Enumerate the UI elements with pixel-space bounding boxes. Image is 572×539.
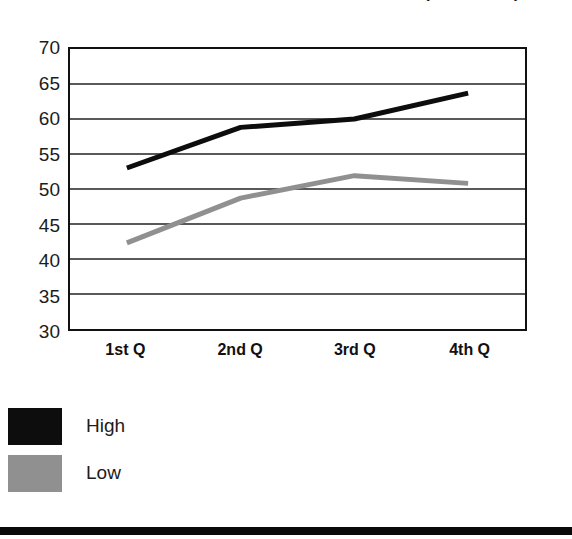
legend-item: High (8, 405, 308, 452)
bottom-rule-divider (0, 527, 572, 535)
x-tick-label: 1st Q (70, 340, 180, 360)
y-tick-label: 50 (16, 180, 60, 199)
legend-swatch-low (8, 455, 62, 492)
y-tick-label: 30 (16, 322, 60, 341)
y-tick-label: 65 (16, 74, 60, 93)
x-tick-label: 2nd Q (185, 340, 295, 360)
series-line-low (127, 176, 468, 243)
x-tick-label: 3rd Q (300, 340, 410, 360)
legend-swatch-high (8, 408, 62, 445)
chart-figure: (continued) 706560555045403530 1st Q2nd … (0, 0, 572, 539)
y-tick-label: 40 (16, 251, 60, 270)
legend-item: Low (8, 452, 308, 499)
chart-title: (continued) (372, 0, 572, 5)
y-tick-label: 35 (16, 287, 60, 306)
y-tick-label: 55 (16, 145, 60, 164)
x-axis-tick-labels: 1st Q2nd Q3rd Q4th Q (68, 340, 527, 364)
chart-legend: HighLow (8, 405, 308, 499)
x-tick-label: 4th Q (415, 340, 525, 360)
y-tick-label: 70 (16, 38, 60, 57)
plot-area (68, 47, 527, 331)
y-tick-label: 60 (16, 109, 60, 128)
y-axis-tick-labels: 706560555045403530 (12, 47, 60, 331)
series-lines (127, 93, 468, 243)
legend-label-high: High (86, 415, 125, 437)
plot-svg (70, 49, 525, 329)
legend-label-low: Low (86, 462, 121, 484)
series-line-high (127, 93, 468, 168)
y-tick-label: 45 (16, 216, 60, 235)
